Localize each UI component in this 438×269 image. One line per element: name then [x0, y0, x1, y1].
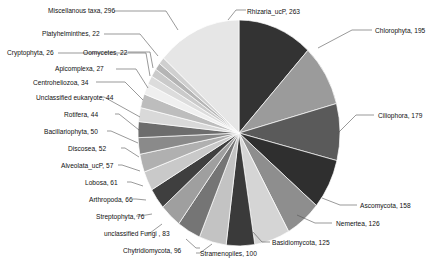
slice-label: Alveolata_ucP, 57: [61, 162, 114, 170]
slice-label: Miscellanous taxa, 296: [48, 7, 115, 14]
slice-label: unclassified Fungi , 83: [104, 230, 170, 238]
pie-chart-figure: Rhizaria_ucP, 263Chlorophyta, 195Cilioph…: [0, 0, 438, 269]
slice-label: Cryptophyta, 26: [7, 49, 54, 57]
leader-line: [337, 115, 374, 134]
leader-line: [127, 182, 143, 186]
slice-label: Discosea, 52: [68, 145, 106, 152]
leader-line: [322, 198, 357, 205]
leader-line: [118, 165, 140, 171]
leader-line: [186, 239, 200, 248]
slice-label: Apicomplexa, 27: [55, 65, 104, 73]
slice-label: Lobosa, 61: [85, 179, 118, 186]
leader-line: [121, 148, 139, 157]
slice-label: Ciliophora, 179: [378, 112, 423, 120]
slice-label: Rhizaria_ucP, 263: [247, 8, 300, 16]
leader-line: [116, 69, 148, 88]
leader-line: [132, 199, 146, 200]
slice-label: Platyhelminthes, 22: [42, 30, 100, 38]
slice-label: Basidiomycota, 125: [272, 239, 330, 247]
slice-label: Bacillariophyta, 50: [44, 128, 98, 136]
pie-chart-svg: Rhizaria_ucP, 263Chlorophyta, 195Cilioph…: [0, 0, 438, 269]
leader-line: [115, 114, 139, 130]
leader-line: [228, 10, 246, 20]
leader-line: [318, 30, 372, 48]
pie-slice-group: [138, 20, 340, 246]
leader-line: [128, 52, 153, 68]
slice-label: Rotifera, 44: [64, 111, 98, 118]
slice-label: Chlorophyta, 195: [375, 27, 426, 35]
leader-line: [114, 11, 178, 30]
slice-label: Stramenopiles, 100: [200, 250, 257, 258]
slice-label: Ascomycota, 158: [360, 202, 411, 210]
slice-label: Chytridiomycota, 96: [123, 247, 182, 255]
slice-label: Streptophyta, 76: [96, 213, 145, 221]
slice-label: Unclassified eukaryote, 44: [36, 94, 114, 102]
slice-label: Oomycetes, 22: [83, 49, 128, 57]
slice-label: Arthropoda, 66: [89, 196, 133, 204]
leader-line: [107, 131, 138, 143]
slice-label: Nemertea, 126: [336, 220, 380, 227]
slice-label: Centroheliozoa, 34: [33, 79, 89, 86]
